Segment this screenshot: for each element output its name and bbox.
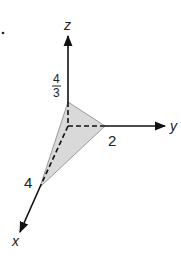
x-intercept-label: 4 [24, 174, 32, 191]
stray-dot [2, 32, 5, 35]
x-axis-label: x [11, 233, 20, 249]
x-axis [20, 187, 40, 232]
z-intercept-denominator: 3 [53, 86, 60, 100]
tetrahedron-diagram: z y x 4 3 2 4 [0, 0, 181, 272]
z-intercept-numerator: 4 [53, 72, 60, 86]
z-axis-label: z [63, 17, 71, 33]
y-intercept-label: 2 [108, 132, 116, 149]
y-axis-label: y [169, 118, 178, 134]
plane-triangle [40, 102, 105, 187]
